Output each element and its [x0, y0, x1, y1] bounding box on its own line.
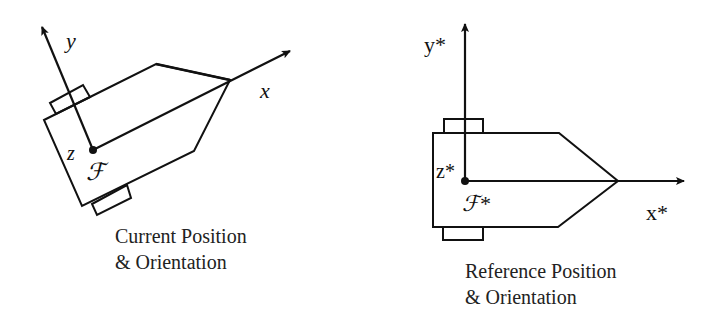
reference-top-wheel	[444, 119, 483, 133]
current-x-label: x	[259, 78, 270, 103]
robot-pose-diagram: y x z ℱ Current Position & Orientation y…	[0, 0, 713, 326]
current-caption-line1: Current Position	[115, 225, 247, 247]
current-caption-line2: & Orientation	[115, 251, 227, 273]
current-z-label: z	[66, 142, 75, 164]
reference-robot	[433, 119, 618, 240]
reference-axes	[465, 24, 684, 181]
reference-z-label: z*	[436, 160, 455, 182]
current-body	[44, 64, 230, 206]
reference-frame-label: ℱ*	[462, 191, 490, 216]
reference-origin-dot	[461, 177, 469, 185]
reference-caption-line1: Reference Position	[465, 260, 617, 282]
current-bottom-wheel	[92, 185, 131, 215]
reference-bottom-wheel	[443, 227, 483, 240]
current-robot	[44, 64, 230, 215]
current-y-label: y	[64, 28, 76, 53]
reference-y-label: y*	[424, 32, 446, 57]
current-origin-dot	[89, 146, 97, 154]
current-frame-label: ℱ	[86, 159, 109, 185]
reference-caption-line2: & Orientation	[465, 286, 577, 308]
reference-x-label: x*	[646, 200, 668, 225]
